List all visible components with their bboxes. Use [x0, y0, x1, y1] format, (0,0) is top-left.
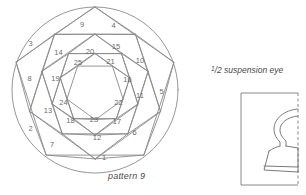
- region-label-4: 4: [111, 21, 115, 30]
- region-label-11: 11: [136, 91, 144, 100]
- eye-base-left: [264, 151, 298, 172]
- figure-page: 1 2 3 4 5 6 7 8 9 10 11 12 13 14 15 16 1…: [0, 0, 306, 195]
- eye-outline: [264, 109, 298, 172]
- region-label-1: 1: [102, 153, 106, 162]
- region-label-14: 14: [54, 48, 62, 57]
- fraction-numerator: 1: [211, 65, 215, 72]
- suspension-eye-drawing: [240, 92, 306, 188]
- pattern-geometry: [12, 7, 178, 173]
- region-label-9: 9: [80, 20, 84, 29]
- region-label-15: 15: [112, 42, 120, 51]
- region-label-18: 18: [66, 116, 74, 125]
- region-label-23: 23: [90, 115, 98, 124]
- spoke-line: [60, 78, 67, 99]
- figure-caption: pattern 9: [108, 171, 145, 181]
- region-label-25: 25: [74, 58, 82, 67]
- spoke-line: [16, 34, 54, 62]
- pattern-diagram: 1 2 3 4 5 6 7 8 9 10 11 12 13 14 15 16 1…: [0, 0, 196, 195]
- region-label-16: 16: [123, 75, 131, 84]
- eye-base-lip: [264, 166, 298, 167]
- suspension-eye-panel: 1/2 suspension eye: [196, 0, 306, 195]
- region-label-20: 20: [86, 47, 94, 56]
- region-label-12: 12: [93, 133, 101, 142]
- region-label-10: 10: [136, 56, 144, 65]
- region-label-17: 17: [113, 117, 121, 126]
- suspension-eye-title: 1/2 suspension eye: [211, 65, 283, 75]
- region-label-13: 13: [44, 106, 52, 115]
- region-label-8: 8: [27, 74, 31, 83]
- region-label-21: 21: [106, 57, 114, 66]
- outer-circle: [12, 7, 178, 173]
- eye-shoulder-left: [269, 146, 280, 151]
- region-label-6: 6: [132, 128, 136, 137]
- region-label-22: 22: [114, 98, 122, 107]
- spoke-line: [55, 7, 96, 34]
- spoke-line: [46, 155, 95, 159]
- region-label-2: 2: [28, 124, 32, 133]
- eye-shoulder-right: [286, 146, 298, 148]
- region-label-7: 7: [50, 140, 54, 149]
- pentagon-ring-6: [67, 66, 123, 119]
- region-label-5: 5: [159, 87, 163, 96]
- pattern-figure-panel: 1 2 3 4 5 6 7 8 9 10 11 12 13 14 15 16 1…: [0, 0, 196, 195]
- fraction-denominator: 2: [217, 65, 222, 75]
- suspension-eye-title-text: suspension eye: [224, 65, 283, 75]
- eye-loop-inner: [280, 116, 298, 146]
- region-label-3: 3: [28, 39, 32, 48]
- spoke-line: [16, 62, 29, 111]
- region-label-24: 24: [59, 98, 67, 107]
- region-label-19: 19: [51, 74, 59, 83]
